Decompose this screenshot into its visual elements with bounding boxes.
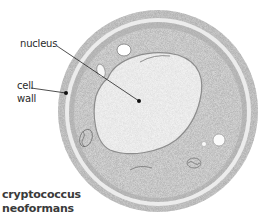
nucleus-pointer-dot: [137, 99, 141, 103]
cell-wall-label-line2: wall: [17, 93, 36, 105]
cell-diagram: nucleus cell wall cryptococcus neoforman…: [0, 0, 268, 221]
cell-wall-label-line1: cell: [17, 80, 33, 92]
nucleus-label: nucleus: [20, 38, 57, 50]
organism-title-line1: cryptococcus: [2, 188, 81, 201]
vacuole-icon: [213, 134, 225, 146]
organism-title-line2: neoformans: [2, 202, 74, 215]
vacuole-icon: [202, 142, 207, 147]
cell-wall-pointer-dot: [64, 91, 68, 95]
vacuole-icon: [117, 44, 131, 56]
